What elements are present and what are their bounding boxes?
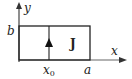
height-label: b: [7, 24, 15, 38]
current-density-label: J: [69, 37, 76, 51]
y-axis-label: y: [23, 1, 31, 15]
x-axis-label: x: [111, 44, 118, 58]
current-direction-arrow-icon: [45, 38, 53, 47]
rectangle-current-diagram: y b J x x0 a: [0, 0, 132, 79]
y-axis-arrow-icon: [16, 2, 22, 9]
x0-label: x0: [43, 63, 55, 78]
width-label: a: [84, 63, 91, 77]
x-axis-arrow-icon: [119, 57, 127, 63]
conductor-rectangle: [19, 26, 90, 60]
diagram-canvas: y b J x x0 a: [0, 0, 132, 79]
